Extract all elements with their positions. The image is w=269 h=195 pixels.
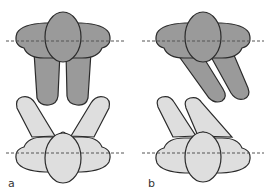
panel-b-top-head — [185, 12, 221, 62]
panel-a — [6, 12, 126, 183]
panel-a-top-figure — [16, 12, 110, 105]
panel-a-label: a — [8, 178, 15, 189]
diagram-canvas: .dark { fill: #9a9a9a; stroke: #2b2b2b; … — [0, 0, 269, 195]
panel-b-top-figure — [156, 12, 250, 102]
panel-b-label: b — [148, 178, 155, 189]
panel-a-bottom-head — [45, 133, 81, 183]
panel-b — [142, 12, 264, 182]
panel-a-top-head — [45, 12, 81, 62]
panel-b-bottom-head — [185, 132, 221, 182]
panel-a-bottom-figure — [16, 97, 110, 183]
panel-b-bottom-figure — [156, 97, 250, 182]
